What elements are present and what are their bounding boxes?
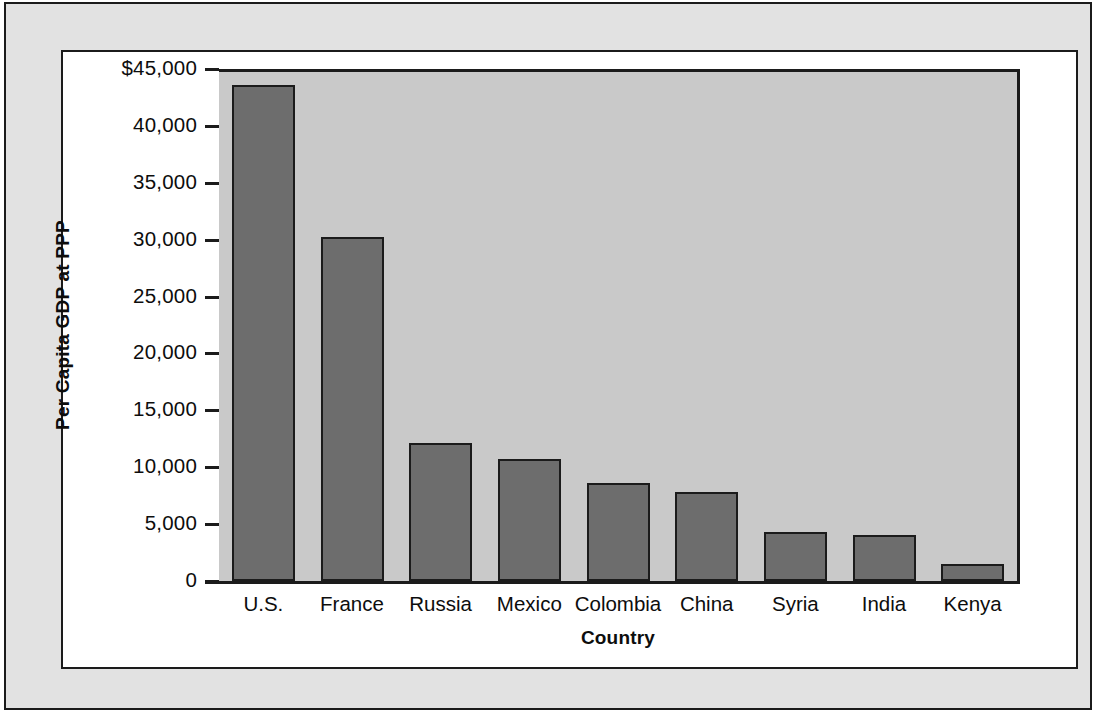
y-axis-tick [205,182,219,185]
bar [498,459,561,581]
bar [321,237,384,581]
x-axis-tick-label: Colombia [574,592,663,616]
bar [853,535,916,581]
y-axis-tick [205,239,219,242]
x-axis-tick-label: China [662,592,751,616]
y-axis-tick-label: 30,000 [87,227,197,251]
y-axis-tick [205,523,219,526]
y-axis-tick [205,352,219,355]
y-axis-tick-labels: 05,00010,00015,00020,00025,00030,00035,0… [85,0,197,725]
y-axis-tick-label: 25,000 [87,284,197,308]
y-axis-tick-label: 20,000 [87,340,197,364]
x-axis-tick-label: Syria [751,592,840,616]
bar [587,483,650,581]
y-axis-tick [205,580,219,583]
y-axis-tick-label: 5,000 [87,511,197,535]
y-axis-title: Per Capita GDP at PPP [52,220,74,430]
bar [941,564,1004,581]
y-axis-tick-label: 10,000 [87,454,197,478]
y-axis-tick-label: 15,000 [87,397,197,421]
scanned-page: 05,00010,00015,00020,00025,00030,00035,0… [0,0,1102,725]
y-axis-tick [205,466,219,469]
bar-chart-figure: 05,00010,00015,00020,00025,00030,00035,0… [0,0,1102,725]
x-axis-tick-label: Kenya [928,592,1017,616]
x-axis-tick-label: U.S. [219,592,308,616]
x-axis-tick-label: Russia [396,592,485,616]
bar [764,532,827,581]
bar [675,492,738,581]
y-axis-tick [205,409,219,412]
y-axis-tick-label: 40,000 [87,113,197,137]
y-axis-tick [205,296,219,299]
x-axis-line [205,581,1020,584]
y-axis-tick-label: 35,000 [87,170,197,194]
y-axis-tick-label: 0 [87,568,197,592]
bar [232,85,295,581]
bar [409,443,472,581]
x-axis-title: Country [219,627,1017,649]
x-axis-tick-label: Mexico [485,592,574,616]
x-axis-tick-label: France [308,592,397,616]
y-axis-tick [205,68,219,71]
y-axis-tick-label: $45,000 [87,56,197,80]
x-axis-tick-label: India [840,592,929,616]
y-axis-tick [205,125,219,128]
